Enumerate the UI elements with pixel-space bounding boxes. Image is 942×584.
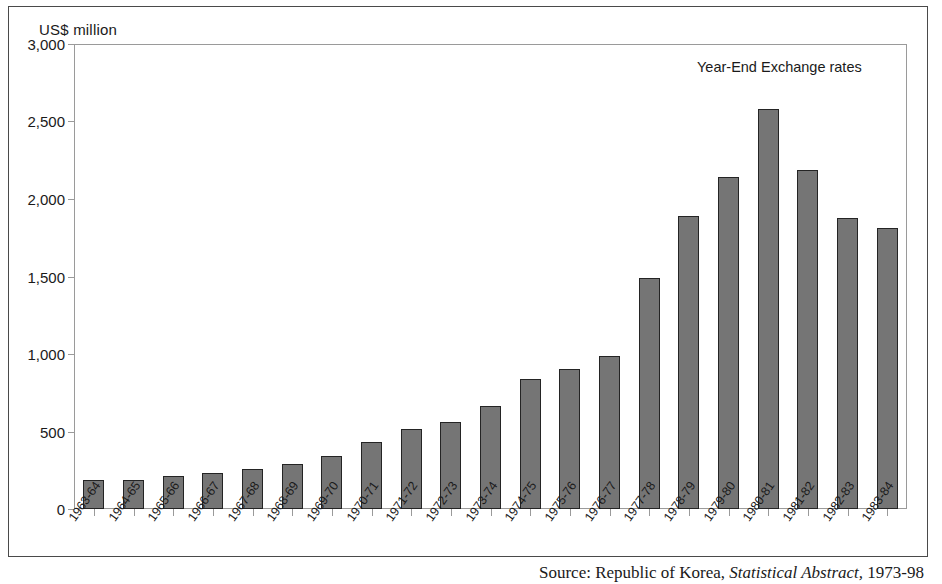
bar-slot — [74, 44, 114, 509]
x-tick-mark — [649, 509, 650, 516]
x-tick-mark — [530, 509, 531, 516]
x-label-slot: 1982-83 — [828, 516, 868, 556]
x-tick-mark — [768, 509, 769, 516]
source-body: Republic of Korea, — [595, 563, 725, 582]
x-label-slot: 1981-82 — [788, 516, 828, 556]
bar-slot — [629, 44, 669, 509]
x-tick-mark — [729, 509, 730, 516]
y-tick-mark — [68, 199, 74, 200]
bar-slot — [828, 44, 868, 509]
y-tick-label: 0 — [0, 501, 74, 518]
source-years: 1973-98 — [867, 563, 924, 582]
x-label-slot: 1968-69 — [272, 516, 312, 556]
y-tick-label: 3,000 — [0, 36, 74, 53]
bar-slot — [867, 44, 907, 509]
y-tick-label: 2,000 — [0, 190, 74, 207]
bar-slot — [788, 44, 828, 509]
y-tick-label: 1,000 — [0, 345, 74, 362]
x-tick-mark — [610, 509, 611, 516]
source-prefix: Source: — [539, 563, 591, 582]
bar-slot — [510, 44, 550, 509]
x-tick-mark — [411, 509, 412, 516]
x-label-slot: 1967-68 — [233, 516, 273, 556]
x-tick-mark — [689, 509, 690, 516]
bar-slot — [748, 44, 788, 509]
bar-slot — [272, 44, 312, 509]
x-tick-mark — [332, 509, 333, 516]
x-tick-mark — [253, 509, 254, 516]
x-label-slot: 1972-73 — [431, 516, 471, 556]
y-tick-mark — [68, 44, 74, 45]
bar — [678, 216, 699, 509]
y-tick-mark — [68, 354, 74, 355]
x-label-slot: 1980-81 — [748, 516, 788, 556]
bar — [758, 109, 779, 509]
x-label-slot: 1975-76 — [550, 516, 590, 556]
bar — [797, 170, 818, 509]
plot-area: 05001,0001,5002,0002,5003,000 — [74, 44, 907, 509]
x-tick-mark — [887, 509, 888, 516]
x-label-slot: 1983-84 — [867, 516, 907, 556]
x-label-slot: 1978-79 — [669, 516, 709, 556]
x-label-slot: 1979-80 — [709, 516, 749, 556]
x-label-slot: 1966-67 — [193, 516, 233, 556]
x-tick-mark — [848, 509, 849, 516]
bar-slot — [114, 44, 154, 509]
bar-slot — [709, 44, 749, 509]
y-tick-label: 500 — [0, 423, 74, 440]
x-tick-mark — [451, 509, 452, 516]
x-tick-mark — [94, 509, 95, 516]
bar-slot — [590, 44, 630, 509]
bar — [639, 278, 660, 509]
bar-slot — [391, 44, 431, 509]
x-axis-labels: 1963-641964-651965-661966-671967-681968-… — [74, 516, 907, 556]
x-label-slot: 1971-72 — [391, 516, 431, 556]
bar-slot — [550, 44, 590, 509]
source-title: Statistical Abstract, — [729, 563, 863, 582]
bar-slot — [471, 44, 511, 509]
x-tick-mark — [808, 509, 809, 516]
x-label-slot: 1970-71 — [352, 516, 392, 556]
x-tick-mark — [173, 509, 174, 516]
bar — [718, 177, 739, 509]
x-tick-mark — [292, 509, 293, 516]
x-label-slot: 1969-70 — [312, 516, 352, 556]
x-label-slot: 1976-77 — [590, 516, 630, 556]
y-tick-mark — [68, 277, 74, 278]
y-tick-mark — [68, 121, 74, 122]
y-tick-label: 1,500 — [0, 268, 74, 285]
bar-slot — [669, 44, 709, 509]
x-tick-mark — [134, 509, 135, 516]
bar-slot — [312, 44, 352, 509]
x-label-slot: 1973-74 — [471, 516, 511, 556]
x-label-slot: 1963-64 — [74, 516, 114, 556]
x-tick-mark — [491, 509, 492, 516]
bar — [877, 228, 898, 509]
bar-slot — [233, 44, 273, 509]
bar-series — [74, 44, 907, 509]
bar-slot — [352, 44, 392, 509]
x-tick-mark — [213, 509, 214, 516]
x-label-slot: 1964-65 — [114, 516, 154, 556]
x-label-slot: 1965-66 — [153, 516, 193, 556]
bar-slot — [193, 44, 233, 509]
y-tick-label: 2,500 — [0, 113, 74, 130]
bar-slot — [431, 44, 471, 509]
figure-container: US$ million Year-End Exchange rates 0500… — [0, 0, 942, 584]
x-tick-mark — [372, 509, 373, 516]
source-caption: Source: Republic of Korea, Statistical A… — [8, 563, 928, 584]
x-label-slot: 1977-78 — [629, 516, 669, 556]
x-label-slot: 1974-75 — [510, 516, 550, 556]
x-tick-mark — [570, 509, 571, 516]
y-tick-mark — [68, 432, 74, 433]
bar-slot — [153, 44, 193, 509]
bar — [837, 218, 858, 509]
